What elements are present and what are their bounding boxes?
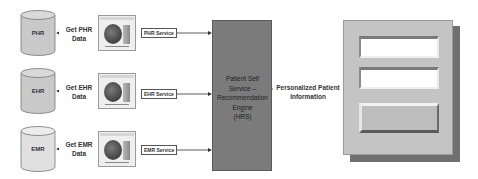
portal-input-field-2[interactable]: [359, 67, 439, 89]
get-data-label-ehr: Get EHR Data: [59, 83, 99, 101]
get-data-line1: Get EMR: [59, 140, 99, 149]
get-data-line1: Get EHR: [59, 83, 99, 92]
window-titlebar: [100, 133, 134, 136]
portal-submit-button[interactable]: [359, 103, 439, 133]
database-phr: PHR: [20, 10, 56, 56]
globe-icon: [104, 24, 122, 44]
service-app-icon-ehr: [98, 73, 136, 109]
get-data-line2: Data: [59, 149, 99, 158]
database-ehr: EHR: [20, 68, 56, 114]
get-data-label-emr: Get EMR Data: [59, 140, 99, 158]
engine-line4: Engine: [205, 103, 280, 113]
get-data-line2: Data: [59, 92, 99, 101]
get-data-line2: Data: [59, 34, 99, 43]
sidebar-bar-icon: [123, 25, 130, 44]
service-label-ehr: EHR Service: [141, 89, 177, 99]
get-data-label-phr: Get PHR Data: [59, 25, 99, 43]
output-line1: Personalized Patient: [273, 83, 343, 92]
portal-input-field-1[interactable]: [359, 36, 439, 58]
sidebar-bar-icon: [123, 141, 130, 160]
engine-line5: (HRS): [205, 112, 280, 122]
engine-line2: Service –: [205, 84, 280, 94]
get-data-line1: Get PHR: [59, 25, 99, 34]
patient-portal-panel: [343, 20, 453, 155]
service-app-icon-phr: [98, 15, 136, 51]
service-label-phr: PHR Service: [141, 28, 177, 38]
globe-icon: [104, 82, 122, 102]
window-titlebar: [100, 17, 134, 20]
engine-line1: Patient Self: [205, 74, 280, 84]
sidebar-bar-icon: [123, 83, 130, 102]
service-label-emr: EMR Service: [141, 145, 177, 155]
personalized-info-label: Personalized Patient Information: [273, 83, 343, 101]
status-line: [105, 104, 129, 105]
recommendation-engine-label: Patient Self Service – Recommendation En…: [205, 74, 280, 122]
database-label: PHR: [20, 30, 56, 36]
status-line: [105, 162, 129, 163]
engine-line3: Recommendation: [205, 93, 280, 103]
database-label: EHR: [20, 88, 56, 94]
globe-icon: [104, 140, 122, 160]
database-emr: EMR: [20, 126, 56, 172]
status-line: [105, 46, 129, 47]
database-label: EMR: [20, 146, 56, 152]
output-line2: Information: [273, 92, 343, 101]
window-titlebar: [100, 75, 134, 78]
service-app-icon-emr: [98, 131, 136, 167]
